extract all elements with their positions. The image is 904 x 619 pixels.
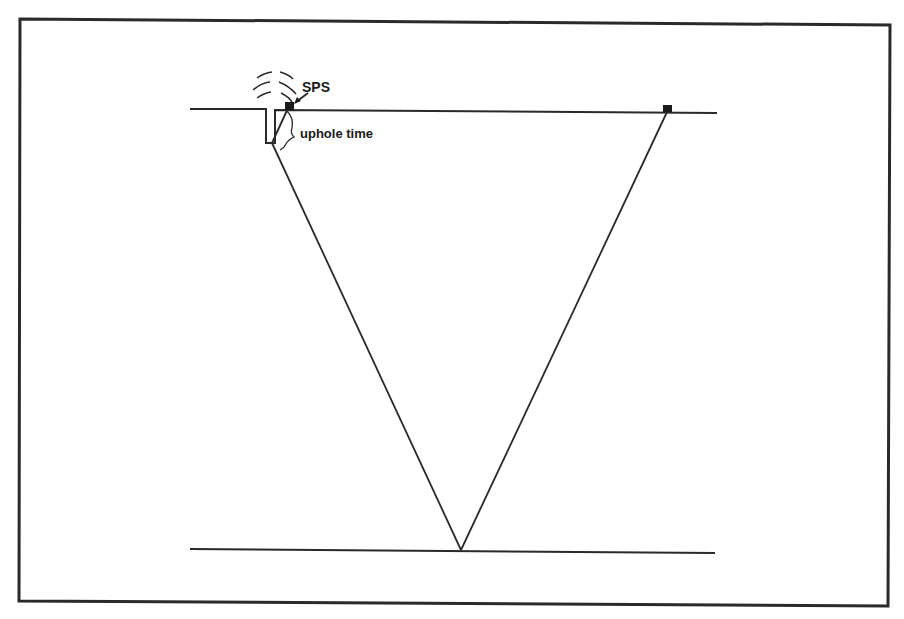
uphole-time-brace — [280, 111, 294, 150]
source-marker-icon — [285, 102, 294, 110]
sps-label: SPS — [302, 79, 330, 95]
reflector-line — [190, 549, 715, 553]
uphole-time-label: uphole time — [300, 126, 373, 141]
wave-emission-icon — [253, 72, 296, 102]
seismic-diagram: SPS uphole time — [0, 0, 904, 619]
surface-line — [190, 109, 717, 143]
downgoing-ray — [272, 143, 461, 550]
receiver-marker-icon — [663, 105, 672, 112]
upgoing-ray — [461, 112, 667, 550]
frame-border — [19, 19, 890, 606]
